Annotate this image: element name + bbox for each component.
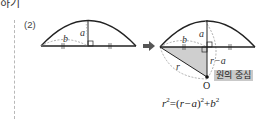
center-point-O: O — [203, 80, 210, 91]
pythagorean-formula: r2=(r−a)2+b2 — [162, 96, 219, 109]
formula-inner: r−a — [180, 97, 197, 109]
formula-b-exp: 2 — [216, 96, 220, 104]
right-label-b: b — [182, 34, 187, 45]
circle-center-label: 원의 중심 — [214, 70, 253, 81]
right-label-r: r — [176, 61, 180, 72]
right-label-a: a — [199, 28, 204, 39]
left-label-b: b — [63, 33, 68, 44]
left-circle-segment — [41, 20, 136, 49]
arrow-icon — [143, 41, 155, 51]
right-label-r-minus-a: r−a — [210, 55, 226, 66]
geometry-figure: a b a b r r−a O — [0, 0, 270, 119]
left-label-a: a — [80, 27, 85, 38]
